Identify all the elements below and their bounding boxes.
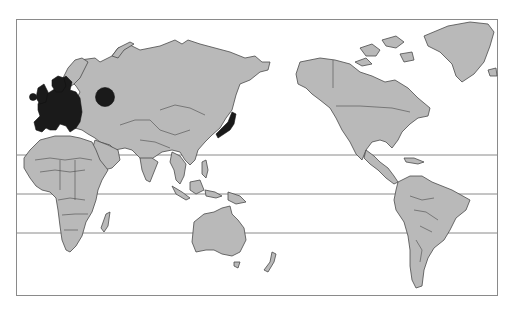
philippines <box>202 160 208 178</box>
world-map <box>0 0 511 310</box>
indonesia <box>172 180 246 204</box>
madagascar <box>101 212 110 232</box>
arctic-archipelago <box>355 36 414 66</box>
new-zealand <box>264 252 276 272</box>
western-russia-marker <box>96 88 115 107</box>
india <box>140 158 158 182</box>
iceland <box>488 68 497 76</box>
scandinavia-highlight <box>52 76 66 92</box>
british-isles-highlight <box>36 84 48 104</box>
north-america <box>296 58 430 160</box>
caribbean-cuba <box>404 158 424 164</box>
australia <box>192 206 246 256</box>
ireland-highlight <box>30 94 37 101</box>
greenland <box>424 22 494 82</box>
tasmania <box>234 262 240 268</box>
